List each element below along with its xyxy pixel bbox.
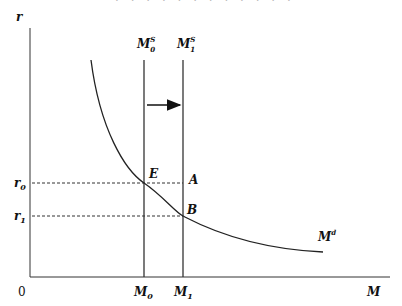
- y-axis-label: r: [16, 10, 24, 24]
- ms0-label: MS0: [136, 35, 155, 54]
- point-e-label: E: [148, 167, 159, 181]
- x-axis-label: M: [366, 285, 381, 299]
- r0-label: r0: [14, 176, 26, 192]
- point-b-label: B: [186, 203, 197, 217]
- md-demand-curve: [91, 60, 323, 252]
- money-market-diagram: r 0 M r0 r1 M0 M1 MS0 MS1 Md E A B: [0, 0, 402, 306]
- r1-label: r1: [14, 209, 26, 225]
- m1-label: M1: [173, 285, 193, 301]
- m0-label: M0: [133, 285, 153, 301]
- point-a-label: A: [188, 173, 198, 187]
- md-label: Md: [317, 228, 336, 244]
- origin-label: 0: [18, 285, 26, 299]
- ms1-label: MS1: [176, 35, 195, 54]
